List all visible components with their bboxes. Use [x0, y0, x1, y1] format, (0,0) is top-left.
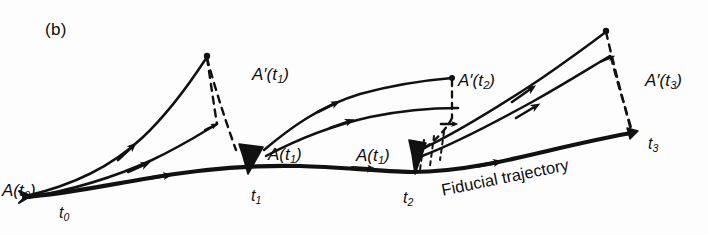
endpoint-marker-t3	[627, 128, 638, 139]
label-A-t1-base: A	[268, 145, 279, 164]
label-Ap-t3-base: A	[645, 71, 656, 90]
peak-marker-t1	[204, 53, 210, 59]
time-marker-t3: t3	[648, 136, 658, 154]
label-vector-A-t1-second: A(t1)	[356, 147, 390, 166]
time-marker-t2: t2	[403, 190, 413, 208]
renormalization-dashed-t2	[422, 80, 452, 150]
time-marker-t0-index: 0	[63, 211, 69, 223]
label-A-t0-close: )	[30, 181, 36, 200]
label-Ap-t2-base: A	[458, 71, 469, 90]
peak-marker-t3	[603, 28, 609, 34]
fiducial-arrowhead-2	[352, 168, 372, 169]
label-A-t1b-base: A	[356, 146, 367, 165]
label-vector-A-t0: A(t0)	[2, 182, 36, 201]
label-Ap-t1-base: A	[252, 65, 263, 84]
renormalization-dashed-t3	[606, 32, 632, 131]
label-A-t0-base: A	[2, 181, 13, 200]
label-Ap-t3-close: )	[676, 71, 682, 90]
divergent-curve-upper-t2	[420, 32, 606, 150]
label-Ap-t2-close: )	[489, 71, 495, 90]
vector-wedge-A-t1-second	[409, 140, 426, 174]
label-vector-Ap-t1: A′(t1)	[252, 66, 289, 85]
peak-marker-t2	[449, 75, 455, 81]
time-marker-t2-index: 2	[407, 196, 413, 208]
label-A-t1b-close: )	[384, 146, 390, 165]
label-vector-A-t1: A(t1)	[268, 146, 302, 165]
time-marker-t0: t0	[59, 205, 69, 223]
fiducial-arrowhead-3	[478, 162, 498, 166]
time-marker-t3-index: 3	[652, 142, 658, 154]
vector-wedge-A-t1	[239, 144, 263, 174]
panel-label: (b)	[45, 21, 67, 38]
label-vector-Ap-t2: A′(t2)	[458, 72, 495, 91]
time-marker-t1-index: 1	[255, 194, 261, 206]
renormalization-dashed-t1	[207, 58, 236, 150]
label-Ap-t1-close: )	[283, 65, 289, 84]
figure-container: (b) A(t0) t0 A′(t1) A(t1) t1 A(t1) A′(t2…	[0, 0, 708, 235]
label-A-t1-close: )	[296, 145, 302, 164]
time-marker-t1: t1	[251, 188, 261, 206]
trajectory-diagram	[0, 0, 708, 235]
label-vector-Ap-t3: A′(t3)	[645, 72, 682, 91]
